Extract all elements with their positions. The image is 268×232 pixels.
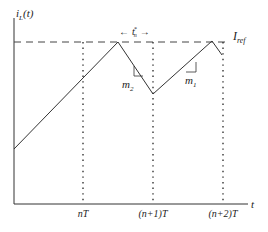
tick-label-n2T: (n+2)T: [209, 208, 239, 220]
slope-falling-label: m2: [122, 78, 134, 93]
tick-label-nT: nT: [78, 208, 90, 219]
y-axis-label: iL(t): [16, 7, 34, 22]
slope-rising-label: m1: [185, 74, 196, 89]
interval-label: ←t*n→: [119, 26, 150, 38]
inductor-current-diagram: iL(t) t Iref ←t*n→ m2 m1 nT (n+1)T (n+2)…: [0, 0, 268, 232]
inductor-current-waveform: [14, 41, 222, 149]
x-axis-label: t: [251, 198, 255, 210]
reference-label: Iref: [232, 29, 247, 45]
tick-label-n1T: (n+1)T: [139, 208, 169, 220]
